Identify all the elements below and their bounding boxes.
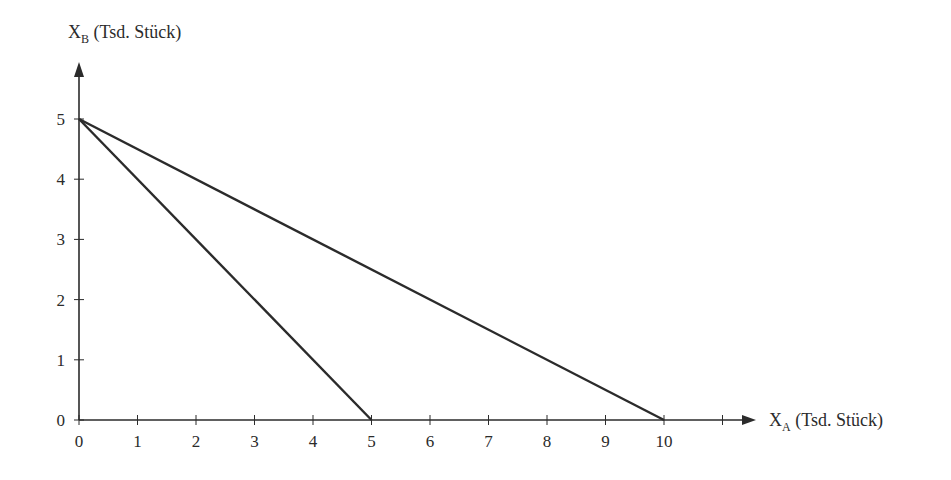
x-axis-label: XA (Tsd. Stück) [769, 410, 883, 434]
x-tick-label: 3 [250, 432, 259, 451]
x-tick-label: 5 [367, 432, 376, 451]
chart: 012345678910012345 XB (Tsd. Stück)XA (Ts… [0, 0, 951, 480]
x-tick-label: 10 [656, 432, 673, 451]
x-tick-label: 6 [426, 432, 435, 451]
series-line-1 [79, 119, 372, 420]
y-tick-label: 5 [57, 110, 66, 129]
x-tick-label: 2 [192, 432, 201, 451]
axes: 012345678910012345 [57, 62, 757, 451]
x-tick-label: 9 [601, 432, 610, 451]
x-axis-arrow-icon [742, 415, 756, 425]
x-tick-label: 4 [309, 432, 318, 451]
data-lines [79, 119, 664, 420]
series-line-2 [79, 119, 664, 420]
x-tick-label: 0 [75, 432, 84, 451]
y-axis-arrow-icon [74, 62, 84, 77]
x-tick-label: 1 [133, 432, 142, 451]
y-tick-label: 1 [57, 351, 66, 370]
x-tick-label: 8 [543, 432, 552, 451]
y-tick-label: 3 [57, 230, 66, 249]
y-axis-label: XB (Tsd. Stück) [68, 22, 181, 46]
y-tick-label: 4 [57, 170, 66, 189]
y-tick-label: 0 [57, 411, 66, 430]
y-tick-label: 2 [57, 291, 66, 310]
axis-labels: XB (Tsd. Stück)XA (Tsd. Stück) [68, 22, 883, 434]
x-tick-label: 7 [484, 432, 493, 451]
